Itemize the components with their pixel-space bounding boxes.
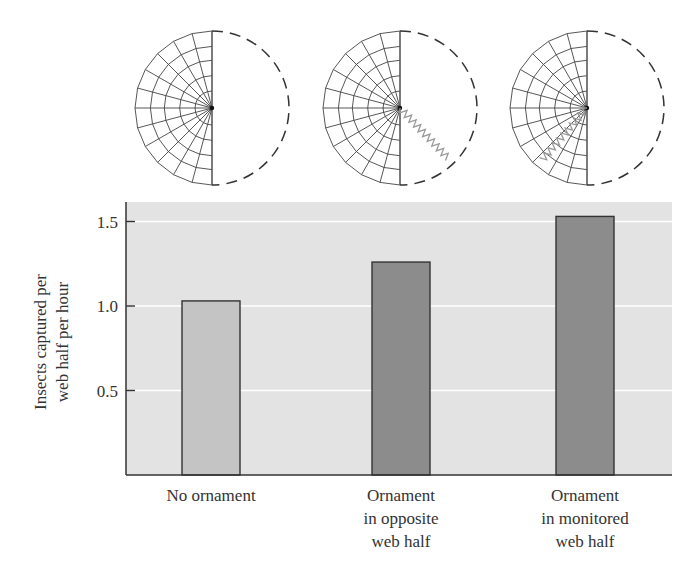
bar-chart: 0.51.01.5 No ornamentOrnamentin opposite… (31, 202, 672, 551)
category-label: web half (371, 532, 430, 551)
spider-web-diagram (323, 31, 477, 185)
unmonitored-web-half-outline (212, 31, 289, 185)
unmonitored-web-half-outline (587, 31, 664, 185)
web-illustrations (135, 31, 664, 185)
unmonitored-web-half-outline (400, 31, 477, 185)
figure: 0.51.01.5 No ornamentOrnamentin opposite… (0, 0, 698, 580)
bar (556, 216, 614, 475)
y-tick-label: 1.5 (97, 213, 118, 232)
spider-web-diagram (135, 31, 289, 185)
y-tick-labels: 0.51.01.5 (97, 213, 118, 401)
category-label: in monitored (541, 509, 629, 528)
category-label: Ornament (367, 486, 435, 505)
category-labels: No ornamentOrnamentin oppositeweb halfOr… (166, 486, 629, 551)
y-tick-label: 1.0 (97, 297, 118, 316)
y-tick-label: 0.5 (97, 382, 118, 401)
bar (182, 301, 240, 475)
category-label: in opposite (363, 509, 438, 528)
category-label: Ornament (551, 486, 619, 505)
bar (372, 262, 430, 475)
stabilimentum-ornament (400, 108, 448, 160)
web-hub (210, 106, 214, 110)
y-axis-title: Insects captured perweb half per hour (31, 274, 72, 410)
spider-web-diagram (510, 31, 664, 185)
category-label: web half (555, 532, 614, 551)
category-label: No ornament (166, 486, 256, 505)
